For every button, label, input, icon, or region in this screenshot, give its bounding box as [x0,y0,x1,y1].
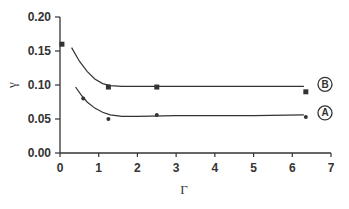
x-tick-label: 3 [173,161,180,175]
y-tick-label: 0.00 [28,146,52,160]
fit-curves [72,48,304,117]
x-tick-label: 5 [250,161,257,175]
x-axis-label: Γ [180,182,188,197]
data-point-a [81,97,85,101]
fit-curve-b [72,48,304,87]
data-point-b [303,89,308,94]
y-tick-label: 0.20 [28,10,52,24]
y-tick-label: 0.05 [28,112,52,126]
fit-curve-a [76,87,304,116]
labels: 0.000.050.100.150.2001234567ΓγBA [4,10,335,197]
y-tick-label: 0.15 [28,44,52,58]
data-point-b [154,85,159,90]
data-point-a [155,113,159,117]
chart: 0.000.050.100.150.2001234567ΓγBA [0,0,349,209]
data-point-b [106,85,111,90]
series-label-a: A [321,107,328,118]
x-tick-label: 1 [95,161,102,175]
x-tick-label: 0 [57,161,64,175]
series-label-b: B [321,79,328,90]
data-point-b [59,42,64,47]
x-tick-label: 7 [328,161,335,175]
x-tick-label: 4 [212,161,219,175]
y-tick-label: 0.10 [28,78,52,92]
x-tick-label: 6 [289,161,296,175]
data-point-a [106,117,110,121]
x-tick-label: 2 [134,161,141,175]
data-point-a [304,115,308,119]
y-axis-label: γ [4,82,19,89]
